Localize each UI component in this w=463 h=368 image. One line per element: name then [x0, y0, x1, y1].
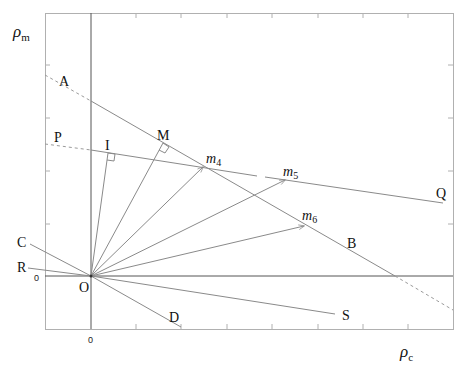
x-origin-tick-label: 0 — [88, 335, 93, 345]
label-D: D — [169, 310, 179, 325]
label-m6: m6 — [302, 208, 317, 225]
line-OD — [91, 276, 181, 327]
y-axis-label: ρm — [12, 22, 30, 43]
label-Q: Q — [436, 186, 446, 201]
label-O: O — [79, 280, 89, 295]
y-origin-tick-label: 0 — [34, 273, 39, 283]
origin-point — [90, 275, 93, 278]
label-B: B — [347, 236, 356, 251]
diagram-canvas: ρm ρc 0 0 A B P Q C D R S O I M m4 m5 m6 — [0, 0, 463, 368]
label-P: P — [54, 130, 62, 145]
segment-OM — [91, 143, 163, 276]
arrow-O-m4 — [91, 167, 203, 276]
label-I: I — [105, 138, 110, 153]
label-m4: m4 — [206, 151, 221, 168]
x-axis-label: ρc — [399, 342, 413, 363]
line-OC — [30, 244, 91, 276]
label-A: A — [59, 74, 70, 89]
label-C: C — [17, 235, 26, 250]
arrow-O-m6 — [91, 226, 304, 276]
line-OS — [91, 276, 335, 314]
line-AB — [45, 75, 453, 310]
segment-OI — [91, 153, 108, 276]
label-M: M — [157, 128, 170, 143]
plot-frame — [45, 13, 454, 330]
label-R: R — [17, 260, 27, 275]
label-m5: m5 — [283, 164, 298, 181]
label-S: S — [342, 308, 350, 323]
arrow-O-m5 — [91, 180, 285, 276]
